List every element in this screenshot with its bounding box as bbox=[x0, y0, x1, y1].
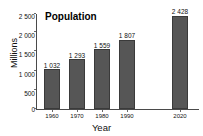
y-tick-mark-2500 bbox=[34, 13, 36, 14]
bar-1980[interactable] bbox=[94, 49, 110, 109]
y-tick-mark-2000 bbox=[34, 31, 36, 32]
x-tick-mark-1980 bbox=[102, 110, 103, 112]
x-tick-mark-1970 bbox=[77, 110, 78, 112]
bar-value-label-1980: 1 559 bbox=[85, 42, 119, 49]
y-tick-mark-500 bbox=[34, 89, 36, 90]
x-tick-mark-1990 bbox=[127, 110, 128, 112]
bar-1970[interactable] bbox=[69, 59, 85, 109]
y-tick-label-500: 500 bbox=[13, 91, 35, 98]
y-tick-label-0: 0 bbox=[13, 107, 35, 114]
y-tick-label-2500: 2 500 bbox=[13, 14, 35, 21]
plot-area: 1 032 1 293 1 559 1 807 2 428 1960 1970 … bbox=[36, 14, 199, 110]
bar-value-label-1990: 1 807 bbox=[110, 32, 144, 39]
y-tick-mark-0 bbox=[34, 108, 36, 109]
bar-2020[interactable] bbox=[172, 16, 188, 109]
y-tick-mark-1000 bbox=[34, 70, 36, 71]
y-axis-title: Millions bbox=[9, 25, 19, 81]
x-axis-line bbox=[36, 109, 199, 110]
bar-1960[interactable] bbox=[44, 69, 60, 109]
x-tick-mark-1960 bbox=[52, 110, 53, 112]
bar-value-label-2020: 2 428 bbox=[163, 8, 197, 15]
y-tick-mark-1500 bbox=[34, 50, 36, 51]
bar-value-label-1970: 1 293 bbox=[60, 52, 94, 59]
x-axis-title: Year bbox=[0, 122, 203, 133]
x-tick-label-1990: 1990 bbox=[112, 113, 142, 120]
bar-value-label-1960: 1 032 bbox=[35, 62, 69, 69]
bar-1990[interactable] bbox=[119, 40, 135, 109]
x-tick-label-2020: 2020 bbox=[165, 113, 195, 120]
population-bar-chart: 2 500 2 000 1 500 1 000 500 0 Millions P… bbox=[0, 0, 203, 136]
x-tick-mark-2020 bbox=[180, 110, 181, 112]
